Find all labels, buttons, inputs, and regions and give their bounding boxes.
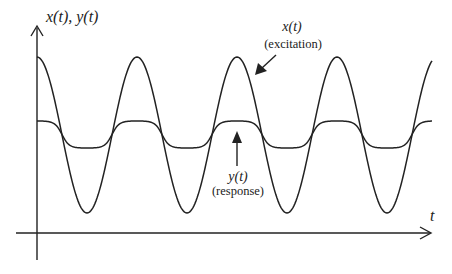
response-symbol: y(t) <box>226 169 248 185</box>
response-curve <box>37 121 432 148</box>
y-axis-label: x(t), y(t) <box>45 8 98 26</box>
response-label: (response) <box>212 184 264 198</box>
response-diagram: x(t), y(t) t x(t) (excitation) y(t) (res… <box>0 0 452 274</box>
excitation-symbol: x(t) <box>281 19 302 35</box>
excitation-label: (excitation) <box>264 37 322 51</box>
excitation-pointer <box>262 55 276 68</box>
x-axis-label: t <box>430 207 435 224</box>
response-arrowhead-icon <box>232 131 242 143</box>
